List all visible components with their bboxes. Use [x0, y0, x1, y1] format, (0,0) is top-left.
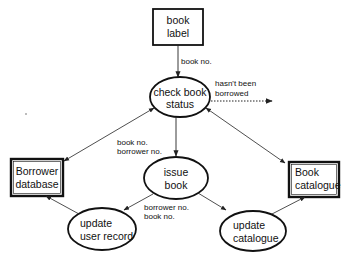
stray-dot	[25, 113, 27, 115]
issue-book-line2: book	[165, 179, 189, 191]
update-catalogue-line2: catalogue	[233, 232, 279, 244]
check-status-line2: status	[166, 98, 194, 110]
edge-not-borrowed-line2: borrowed	[215, 89, 248, 98]
borrower-db-line1: Borrower	[16, 165, 59, 177]
book-label-line2: label	[167, 27, 189, 39]
check-book-status-node: check book status	[150, 77, 210, 117]
edge-issue-in-line2: borrower no.	[117, 147, 162, 156]
update-user-line2: user record	[80, 230, 133, 242]
update-catalogue-node: update catalogue	[220, 211, 286, 251]
update-user-line1: update	[80, 217, 112, 229]
book-label-line1: book	[167, 14, 191, 26]
edge-issue-out-line2: book no.	[144, 212, 175, 221]
edge-update-catalogue-to-book-catalogue	[272, 197, 305, 214]
check-status-line1: check book	[153, 86, 207, 98]
book-catalogue-line2: catalogue	[295, 179, 341, 191]
borrower-db-line2: database	[15, 178, 58, 190]
book-label-node: book label	[153, 9, 203, 45]
edge-issue-out-line1: borrower no.	[144, 203, 189, 212]
edge-update-user-to-db	[46, 196, 79, 214]
issue-book-node: issue book	[144, 157, 208, 199]
data-flow-diagram: book label book no. check book status ha…	[0, 0, 349, 264]
edge-issue-in-line1: book no.	[117, 138, 148, 147]
book-catalogue-line1: Book	[295, 166, 320, 178]
update-user-record-node: update user record	[68, 208, 136, 250]
update-catalogue-line1: update	[233, 219, 265, 231]
issue-book-line1: issue	[164, 166, 189, 178]
edge-issue-to-update-catalogue	[198, 193, 226, 210]
edge-not-borrowed-line1: hasn't been	[215, 79, 256, 88]
book-catalogue-node: Book catalogue	[289, 162, 341, 197]
edge-label-book-no: book no.	[181, 57, 212, 66]
edge-check-book-catalogue	[206, 108, 285, 163]
borrower-database-node: Borrower database	[11, 159, 63, 196]
